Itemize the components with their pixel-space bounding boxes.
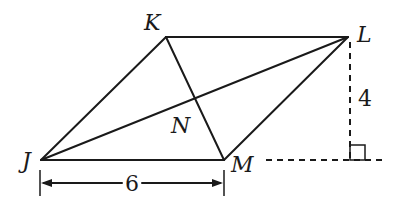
height-label: 4 bbox=[358, 86, 372, 111]
side-lm bbox=[224, 37, 348, 160]
vertex-label-k: K bbox=[143, 10, 162, 35]
rhombus-diagram: K L M J N 6 4 bbox=[0, 0, 398, 207]
base-length-label: 6 bbox=[125, 171, 139, 196]
intersection-label-n: N bbox=[170, 113, 191, 138]
vertex-label-j: J bbox=[18, 148, 32, 173]
arrowhead-left-icon bbox=[41, 179, 52, 187]
diagonal-km bbox=[166, 37, 224, 160]
arrowhead-right-icon bbox=[212, 179, 223, 187]
vertex-label-l: L bbox=[356, 22, 372, 47]
side-jk bbox=[41, 37, 166, 160]
vertex-label-m: M bbox=[230, 152, 254, 177]
right-angle-icon bbox=[350, 145, 365, 160]
